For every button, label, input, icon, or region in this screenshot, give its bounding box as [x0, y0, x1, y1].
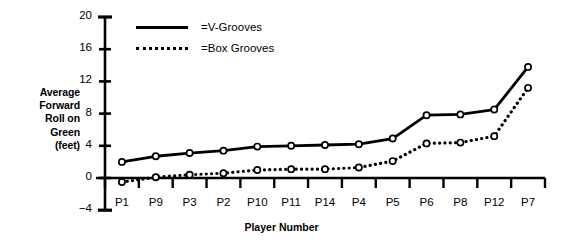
x-axis-tick-label: P7 [508, 196, 548, 208]
y-axis-tick-label: 8 [62, 106, 92, 118]
data-point-marker [187, 150, 193, 156]
data-point-marker [288, 143, 294, 149]
y-axis-tick-label: 4 [62, 138, 92, 150]
data-point-marker [356, 141, 362, 147]
data-point-marker [220, 170, 226, 176]
x-axis-label: Player Number [0, 221, 563, 233]
data-point-marker [119, 159, 125, 165]
data-point-marker [356, 164, 362, 170]
data-point-marker [322, 166, 328, 172]
data-point-marker [457, 139, 463, 145]
data-point-marker [390, 158, 396, 164]
chart-container: Average Forward Roll on Green (feet) =V-… [0, 0, 563, 245]
y-axis-tick-label: 20 [62, 9, 92, 21]
y-axis-tick-label: 16 [62, 41, 92, 53]
data-point-marker [322, 142, 328, 148]
data-point-marker [153, 153, 159, 159]
data-point-marker [491, 133, 497, 139]
data-point-marker [423, 112, 429, 118]
y-axis-tick-label: −4 [62, 202, 92, 214]
data-point-marker [254, 167, 260, 173]
data-point-marker [119, 179, 125, 185]
data-point-marker [525, 64, 531, 70]
data-point-marker [423, 140, 429, 146]
data-point-marker [491, 106, 497, 112]
y-axis-tick-label: 0 [62, 170, 92, 182]
data-point-marker [288, 166, 294, 172]
data-point-marker [187, 172, 193, 178]
data-point-marker [254, 144, 260, 150]
data-point-marker [220, 148, 226, 154]
y-axis-tick-label: 12 [62, 73, 92, 85]
data-point-marker [525, 85, 531, 91]
data-point-marker [390, 135, 396, 141]
data-point-marker [153, 174, 159, 180]
data-point-marker [457, 111, 463, 117]
